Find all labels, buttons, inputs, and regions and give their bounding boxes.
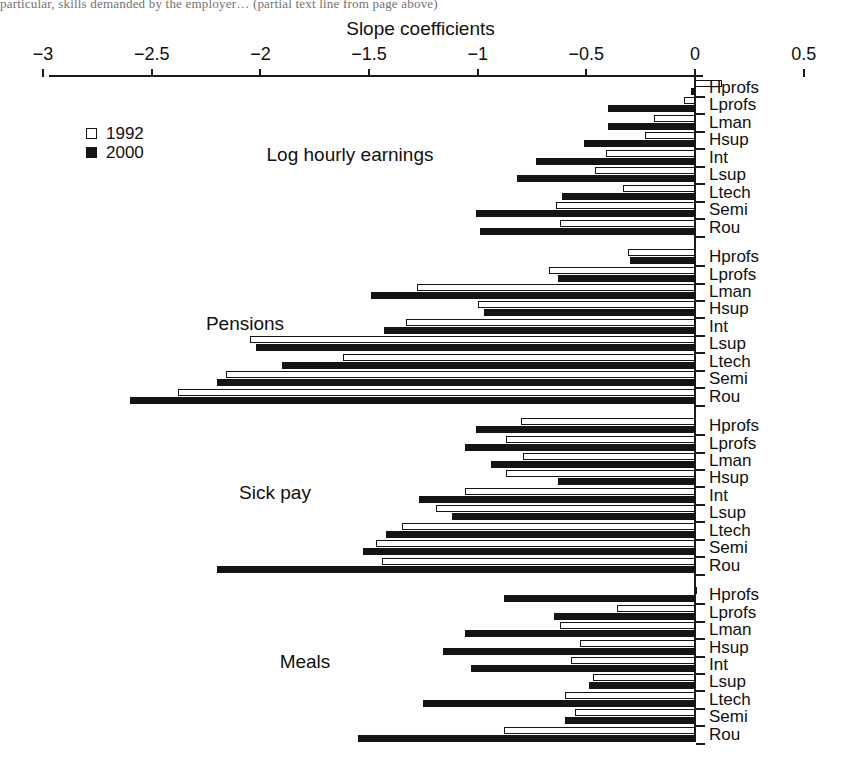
bar-meals-lman-2000 <box>465 630 695 637</box>
bar-sick-pay-hprofs-2000 <box>476 426 695 433</box>
category-label-lsup: Lsup <box>709 166 746 183</box>
bar-meals-ltech-2000 <box>423 700 695 707</box>
bar-log-hourly-earnings-ltech-1992 <box>623 185 695 192</box>
bar-pensions-semi-2000 <box>217 379 695 386</box>
category-label-ltech: Ltech <box>709 184 751 201</box>
bar-pensions-hsup-2000 <box>484 309 695 316</box>
x-tick-label: −2 <box>250 44 271 65</box>
bar-sick-pay-rou-2000 <box>217 566 695 573</box>
bar-sick-pay-lsup-2000 <box>452 513 695 520</box>
bar-sick-pay-lprofs-1992 <box>506 436 695 443</box>
x-tick-label: −2.5 <box>134 44 170 65</box>
category-label-lsup: Lsup <box>709 504 746 521</box>
panel-label-pensions: Pensions <box>206 313 284 335</box>
bar-log-hourly-earnings-ltech-2000 <box>562 193 695 200</box>
legend-label-1992: 1992 <box>106 124 144 144</box>
category-label-lprofs: Lprofs <box>709 604 756 621</box>
legend-label-2000: 2000 <box>106 143 144 163</box>
category-label-hsup: Hsup <box>709 300 749 317</box>
category-tick <box>696 370 705 372</box>
bar-sick-pay-int-2000 <box>419 496 695 503</box>
category-tick <box>696 434 705 436</box>
category-label-lsup: Lsup <box>709 673 746 690</box>
bar-pensions-semi-1992 <box>226 371 695 378</box>
category-label-semi: Semi <box>709 539 748 556</box>
legend: 1992 2000 <box>86 124 144 162</box>
bar-meals-lman-1992 <box>560 622 695 629</box>
category-label-ltech: Ltech <box>709 353 751 370</box>
panel-label-sick-pay: Sick pay <box>239 482 311 504</box>
category-tick <box>696 387 705 389</box>
category-tick <box>696 166 705 168</box>
category-tick <box>696 335 705 337</box>
category-label-hprofs: Hprofs <box>709 417 759 434</box>
category-tick <box>696 113 705 115</box>
bar-sick-pay-lman-1992 <box>523 453 695 460</box>
panel-label-meals: Meals <box>280 651 331 673</box>
bar-pensions-rou-1992 <box>178 389 695 396</box>
x-tick-label: −3 <box>33 44 54 65</box>
category-label-lprofs: Lprofs <box>709 266 756 283</box>
bar-sick-pay-hsup-1992 <box>506 470 695 477</box>
category-tick <box>696 673 705 675</box>
bar-meals-rou-1992 <box>504 727 695 734</box>
category-tick <box>696 743 705 745</box>
bar-log-hourly-earnings-lsup-2000 <box>517 175 695 182</box>
bar-meals-lprofs-1992 <box>617 605 695 612</box>
bar-pensions-int-2000 <box>384 327 695 334</box>
category-tick <box>696 539 705 541</box>
category-label-lprofs: Lprofs <box>709 435 756 452</box>
bar-meals-lprofs-2000 <box>554 613 695 620</box>
category-label-semi: Semi <box>709 201 748 218</box>
bar-meals-hprofs-1992 <box>695 587 697 594</box>
category-tick <box>696 521 705 523</box>
category-label-hprofs: Hprofs <box>709 79 759 96</box>
x-tick-label: −1 <box>467 44 488 65</box>
bar-sick-pay-lprofs-2000 <box>465 444 695 451</box>
category-tick <box>696 504 705 506</box>
legend-item-2000: 2000 <box>86 143 144 162</box>
bar-pensions-int-1992 <box>406 319 695 326</box>
category-label-hprofs: Hprofs <box>709 248 759 265</box>
bar-meals-ltech-1992 <box>565 692 695 699</box>
bar-meals-hsup-2000 <box>443 648 695 655</box>
bar-log-hourly-earnings-semi-1992 <box>556 202 695 209</box>
bar-log-hourly-earnings-hsup-2000 <box>584 140 695 147</box>
category-label-hsup: Hsup <box>709 639 749 656</box>
category-tick <box>696 265 705 267</box>
bar-sick-pay-ltech-1992 <box>402 523 695 530</box>
category-tick <box>696 638 705 640</box>
panel-label-log-hourly-earnings: Log hourly earnings <box>267 144 434 166</box>
category-tick <box>696 201 705 203</box>
bar-sick-pay-hsup-2000 <box>558 478 695 485</box>
category-tick <box>696 405 705 407</box>
bar-sick-pay-semi-1992 <box>376 540 695 547</box>
bar-pensions-lprofs-1992 <box>549 267 695 274</box>
bar-log-hourly-earnings-int-1992 <box>606 150 695 157</box>
category-label-hsup: Hsup <box>709 131 749 148</box>
category-tick <box>696 656 705 658</box>
category-label-lman: Lman <box>709 452 752 469</box>
bar-log-hourly-earnings-int-2000 <box>536 158 695 165</box>
category-tick <box>696 690 705 692</box>
category-tick <box>696 708 705 710</box>
category-label-ltech: Ltech <box>709 522 751 539</box>
category-label-rou: Rou <box>709 557 740 574</box>
bar-meals-int-2000 <box>471 665 695 672</box>
bar-pensions-hprofs-2000 <box>630 257 695 264</box>
bar-meals-lsup-2000 <box>589 682 695 689</box>
category-label-int: Int <box>709 318 728 335</box>
legend-swatch-1992 <box>86 128 97 139</box>
category-tick <box>696 725 705 727</box>
bar-meals-semi-2000 <box>565 717 695 724</box>
category-label-rou: Rou <box>709 726 740 743</box>
category-tick <box>696 218 705 220</box>
category-tick <box>696 317 705 319</box>
x-tick-label: 0 <box>690 44 700 65</box>
category-tick <box>696 452 705 454</box>
bar-log-hourly-earnings-lprofs-1992 <box>684 97 695 104</box>
bar-pensions-hsup-1992 <box>478 301 695 308</box>
bar-pensions-rou-2000 <box>130 397 695 404</box>
plot-area: HprofsLprofsLmanHsupIntLsupLtechSemiRouL… <box>0 76 841 756</box>
category-tick <box>696 603 705 605</box>
